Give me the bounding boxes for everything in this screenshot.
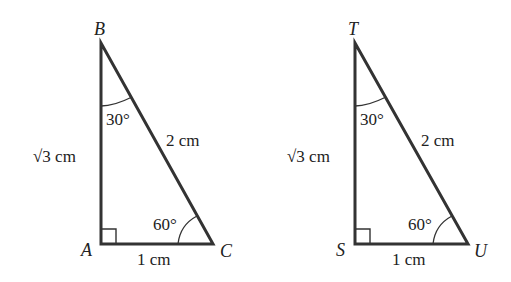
- vertex-label-b: B: [94, 19, 105, 39]
- angle-label-b: 30°: [106, 110, 130, 129]
- triangle-tsu: T S U 30° 60° √3 cm 2 cm 1 cm: [287, 19, 488, 269]
- angle-label-t: 30°: [360, 110, 384, 129]
- side-label-bc: 2 cm: [166, 131, 200, 150]
- angle-label-u: 60°: [408, 215, 432, 234]
- vertex-label-c: C: [220, 241, 233, 261]
- side-label-ts: √3 cm: [287, 147, 330, 166]
- vertex-label-t: T: [348, 19, 360, 39]
- vertex-label-a: A: [80, 240, 93, 260]
- angle-arc-b: [101, 97, 132, 106]
- angle-arc-u: [433, 216, 452, 244]
- right-angle-marker-a: [101, 229, 116, 244]
- angle-arc-c: [178, 216, 197, 244]
- side-label-su: 1 cm: [392, 250, 426, 269]
- right-angle-marker-s: [355, 229, 370, 244]
- side-label-ab: √3 cm: [33, 147, 76, 166]
- angle-arc-t: [355, 97, 386, 106]
- side-label-ac: 1 cm: [137, 250, 171, 269]
- diagram-canvas: B A C 30° 60° √3 cm 2 cm 1 cm T S U 30° …: [0, 0, 511, 282]
- vertex-label-u: U: [474, 241, 488, 261]
- triangle-abc: B A C 30° 60° √3 cm 2 cm 1 cm: [33, 19, 233, 269]
- vertex-label-s: S: [336, 240, 345, 260]
- side-label-tu: 2 cm: [421, 131, 455, 150]
- angle-label-c: 60°: [153, 215, 177, 234]
